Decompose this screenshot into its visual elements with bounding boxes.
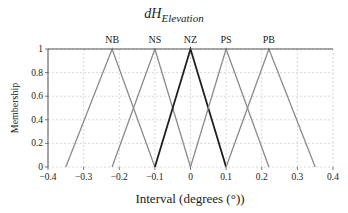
x-axis-label: Interval (degrees (°)) xyxy=(135,191,244,206)
mf-labels: NBNSNZPSPB xyxy=(105,34,275,45)
mf-label-ps: PS xyxy=(221,34,232,45)
x-tick-label: 0.2 xyxy=(256,172,268,182)
y-tick-label: 0.4 xyxy=(31,115,43,125)
mf-pb xyxy=(226,49,315,167)
y-axis-label: Membership xyxy=(9,83,20,134)
y-tick-label: 0.2 xyxy=(31,138,43,148)
mf-label-pb: PB xyxy=(263,34,276,45)
mf-ps xyxy=(191,49,269,167)
x-tick-label: −0.3 xyxy=(75,172,92,182)
x-tick-label: 0.4 xyxy=(327,172,339,182)
grid-lines xyxy=(48,49,333,167)
mf-label-nb: NB xyxy=(105,34,119,45)
mf-ns xyxy=(112,49,190,167)
y-tick-label: 0.8 xyxy=(31,68,43,78)
x-tick-label: −0.2 xyxy=(111,172,128,182)
y-tick-label: 0.6 xyxy=(31,91,43,101)
y-tick-label: 1 xyxy=(38,44,43,54)
mf-nb xyxy=(66,49,155,167)
x-tick-label: −0.4 xyxy=(39,172,56,182)
y-tick-label: 0 xyxy=(38,162,43,172)
mf-label-nz: NZ xyxy=(184,34,197,45)
membership-chart: −0.4−0.3−0.2−0.100.10.20.30.400.20.40.60… xyxy=(0,0,348,213)
mf-label-ns: NS xyxy=(148,34,161,45)
x-tick-label: −0.1 xyxy=(146,172,163,182)
x-tick-label: 0.1 xyxy=(220,172,232,182)
x-tick-label: 0 xyxy=(188,172,193,182)
x-tick-label: 0.3 xyxy=(291,172,303,182)
